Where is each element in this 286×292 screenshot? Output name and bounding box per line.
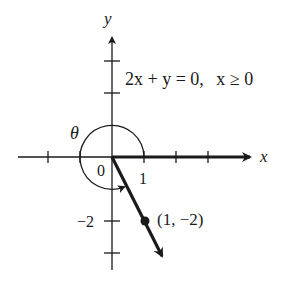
point-marker	[141, 217, 150, 226]
x-tick-label: 1	[139, 170, 147, 187]
equation-part2: x ≥ 0	[216, 69, 253, 89]
diagram-canvas: y x 0 1 −2 2x + y = 0, x ≥ 0 θ (1, −2)	[0, 0, 286, 292]
theta-label: θ	[70, 123, 79, 143]
point-label: (1, −2)	[157, 210, 203, 229]
x-axis-label: x	[259, 147, 268, 166]
y-tick-label: −2	[77, 213, 94, 230]
terminal-side-ray	[112, 157, 162, 256]
y-axis-label: y	[102, 9, 112, 28]
origin-label: 0	[97, 162, 105, 179]
equation-label: 2x + y = 0, x ≥ 0	[125, 69, 253, 89]
equation-part1: 2x + y = 0,	[125, 69, 204, 89]
